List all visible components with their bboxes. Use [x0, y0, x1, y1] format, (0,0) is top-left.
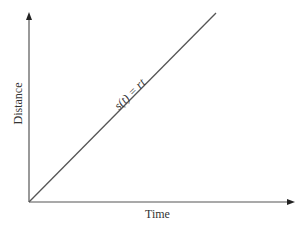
x-axis-arrow-icon: [287, 199, 295, 205]
y-axis-arrow-icon: [26, 12, 32, 20]
x-axis-label: Time: [145, 207, 170, 222]
chart-plot: [0, 0, 306, 225]
y-axis-label: Distance: [11, 74, 26, 134]
